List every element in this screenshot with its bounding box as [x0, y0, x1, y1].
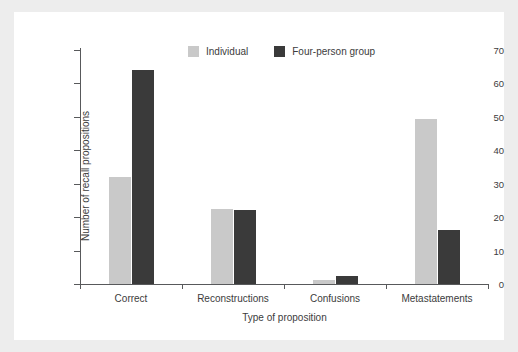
x-category-label: Correct — [115, 293, 148, 304]
bar-individual-confusions — [313, 280, 335, 284]
bar-four-person-group-reconstructions — [234, 210, 256, 284]
bar-individual-correct — [109, 177, 131, 284]
chart-figure: Individual Four-person group Number of r… — [14, 12, 504, 340]
x-axis-title: Type of proposition — [80, 312, 489, 323]
bar-four-person-group-metastatements — [438, 230, 460, 284]
bar-four-person-group-confusions — [336, 276, 358, 284]
x-tick-mark — [284, 284, 285, 289]
x-tick-mark — [80, 284, 81, 289]
bar-four-person-group-correct — [132, 70, 154, 284]
x-tick-mark — [488, 284, 489, 289]
bar-individual-metastatements — [415, 119, 437, 284]
bar-individual-reconstructions — [211, 209, 233, 284]
x-category-label: Reconstructions — [197, 293, 269, 304]
x-tick-mark — [182, 284, 183, 289]
x-category-label: Confusions — [310, 293, 360, 304]
x-category-label: Metastatements — [401, 293, 472, 304]
x-tick-mark — [386, 284, 387, 289]
plot-area — [80, 50, 488, 284]
